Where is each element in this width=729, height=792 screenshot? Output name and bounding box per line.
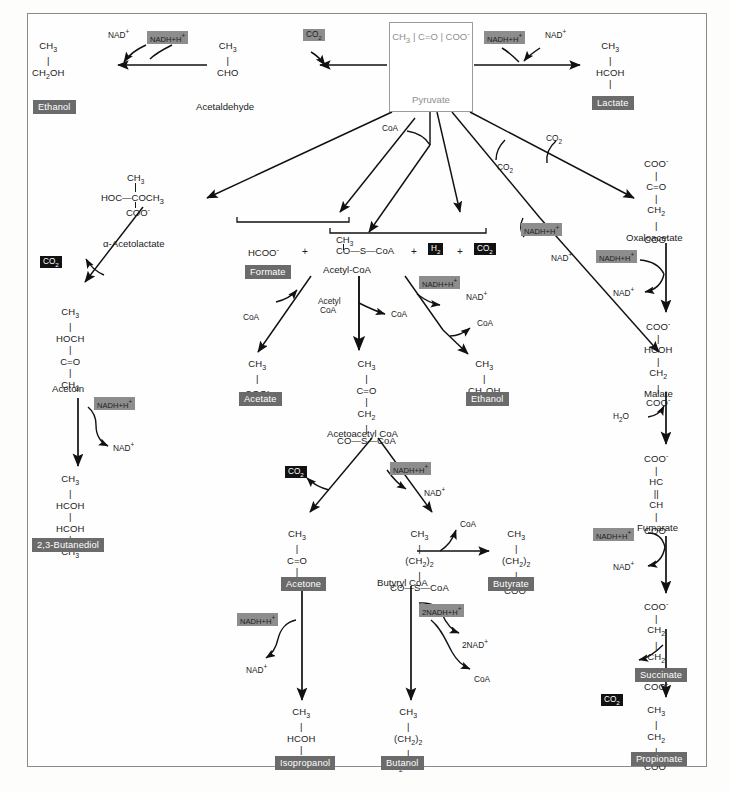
molecule-acetoin: CH3|HOCH|C=O|CH3: [56, 306, 84, 394]
cofactor-coa-pyruvate: CoA: [382, 123, 398, 133]
cofactor-nad-oxaloacetate: NAD+: [613, 286, 634, 298]
product-lactate[interactable]: Lactate: [592, 96, 634, 110]
cofactor-nadh-acetoacetyl: NADH+H+: [390, 462, 431, 475]
label-acetylcoa: Acetyl-CoA: [323, 264, 371, 275]
operator-plus-3: +: [457, 246, 463, 257]
cofactor-nad-ethanol-top: NAD+: [108, 28, 129, 40]
pyruvate-row-4: COO-: [446, 31, 470, 42]
product-succinate[interactable]: Succinate: [635, 668, 687, 682]
gas-co2-acetolactate: CO2: [40, 256, 62, 268]
molecule-lactate: CH3|HCOH|COO-: [596, 40, 624, 105]
label-oxaloacetate: Oxaloacetate: [626, 232, 683, 243]
product-acetone[interactable]: Acetone: [281, 577, 326, 591]
cofactor-coa-butyrate: CoA: [460, 519, 476, 529]
cofactor-nad-isopropanol: NAD+: [246, 663, 267, 675]
label-butyrylcoa: Butyryl CoA: [377, 577, 428, 588]
cofactor-coa-butanol: CoA: [474, 674, 490, 684]
label-acetoin: Acetoin: [52, 383, 84, 394]
pyruvate-formula: CH3 | C=O | COO-: [390, 28, 472, 47]
cofactor-water-fumarate: H2O: [613, 411, 629, 423]
pyruvate-row-2: C=O: [418, 31, 438, 42]
molecule-acetolactate-inline: HOC—COCH3: [101, 192, 164, 206]
label-acetoacetylcoa: Acetoacetyl CoA: [327, 428, 398, 439]
pyruvate-node[interactable]: CH3 | C=O | COO- Pyruvate: [389, 22, 473, 112]
gas-co2-plain-a: CO2: [497, 162, 513, 174]
pyruvate-row-3: |: [440, 31, 442, 42]
cofactor-nad-acetoin: NAD+: [113, 441, 134, 453]
cofactor-nad-acetoacetyl: NAD+: [424, 486, 445, 498]
cofactor-nad-center-right: NAD+: [551, 251, 572, 263]
product-butanediol[interactable]: 2,3-Butanediol: [32, 538, 104, 552]
molecule-formate: HCOO-: [248, 245, 279, 258]
cofactor-nadh-acetoin: NADH+H+: [94, 397, 135, 410]
operator-plus-1: +: [302, 246, 308, 257]
product-formate[interactable]: Formate: [245, 265, 291, 279]
cofactor-acetylcoa-short-2: CoA: [320, 305, 336, 315]
product-butanol[interactable]: Butanol: [381, 756, 424, 770]
molecule-acetaldehyde: CH3|CHO: [217, 40, 238, 78]
label-acetaldehyde: Acetaldehyde: [196, 101, 254, 112]
label-fumarate: Fumarate: [637, 522, 678, 533]
product-ethanol-mid[interactable]: Ethanol: [466, 392, 509, 406]
product-butyrate[interactable]: Butyrate: [488, 577, 534, 591]
cofactor-nad-lactate: NAD+: [545, 28, 566, 40]
cofactor-nadh-center-right: NADH+H+: [521, 223, 562, 236]
pyruvate-row-0: CH3: [392, 31, 410, 42]
cofactor-nadh-isopropanol: NADH+H+: [237, 613, 278, 626]
pyruvate-row-1: |: [413, 31, 415, 42]
gas-co2-succinate: CO2: [601, 694, 623, 706]
product-propionate[interactable]: Propionate: [631, 752, 687, 766]
product-acetate[interactable]: Acetate: [239, 392, 282, 406]
gas-co2-center: CO2: [474, 243, 496, 255]
gas-co2-acetoacetyl: CO2: [285, 466, 307, 478]
cofactor-nadh-oxaloacetate: NADH+H+: [596, 250, 637, 263]
bond-acetolactate-lower: [135, 202, 136, 208]
gas-co2-plain-b: CO2: [546, 133, 562, 145]
label-malate: Malate: [644, 388, 673, 399]
cofactor-nadh-lactate: NADH+H+: [484, 31, 525, 44]
gas-co2-acetaldehyde: CO2: [303, 29, 325, 41]
cofactor-nadh-ethanol-mid: NADH+H+: [419, 276, 460, 289]
cofactor-nad2-butanol: 2NAD+: [462, 638, 488, 650]
label-acetolactate: α-Acetolactate: [103, 238, 165, 249]
molecule-ethanol-top: CH3|CH2OH: [32, 40, 64, 82]
cofactor-nadh2-butanol: 2NADH+H+: [419, 604, 464, 617]
figure-root: CH3 | C=O | COO- Pyruvate CH3|CH2OH Etha…: [0, 0, 729, 792]
cofactor-coa-acetate: CoA: [243, 312, 259, 322]
molecule-acetolactate-bottom: COO-: [126, 206, 150, 218]
cofactor-nad-ethanol-mid: NAD+: [466, 290, 487, 302]
cofactor-coa-ethanol-mid: CoA: [477, 318, 493, 328]
gas-h2-center: H2: [428, 243, 443, 255]
product-isopropanol[interactable]: Isopropanol: [275, 756, 335, 770]
cofactor-coa-acetoacetyl: CoA: [391, 309, 407, 319]
operator-plus-2: +: [411, 246, 417, 257]
product-ethanol-top[interactable]: Ethanol: [33, 100, 76, 114]
molecule-acetylcoa-inline: CO—S—CoA: [336, 245, 394, 256]
pyruvate-label: Pyruvate: [390, 94, 472, 105]
cofactor-nadh-ethanol-top: NADH+H+: [147, 31, 188, 44]
cofactor-nadh-fumarate: NADH+H+: [593, 528, 634, 541]
cofactor-nad-fumarate: NAD+: [613, 560, 634, 572]
bond-acetolactate-upper: [135, 183, 136, 192]
